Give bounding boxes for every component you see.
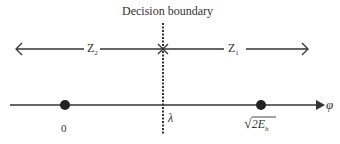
threshold-label-lambda: λ [168,111,173,126]
point-label-sub: b [265,125,269,133]
phi-axis [10,100,325,110]
signal-point-sqrt2eb [256,100,266,110]
point-label-zero: 0 [61,122,67,134]
point-label-sqrt2eb: √2Eb [244,116,269,133]
decision-boundary-label: Decision boundary [122,4,213,19]
axis-arrowhead-icon [316,100,325,110]
region-label-z1: Z1 [227,41,240,57]
radical-sign-icon: √ [244,116,252,131]
region-z1-sub: 1 [235,49,239,57]
axis-label-phi: φ [326,97,333,113]
region-z2-sub: 2 [94,49,98,57]
signal-point-zero [60,100,70,110]
region-label-z2: Z2 [86,41,99,57]
point-label-body: 2E [252,117,265,131]
